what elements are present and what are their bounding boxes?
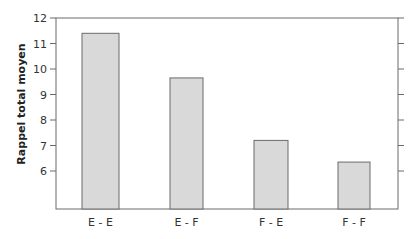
x-category-label: E - F [174,216,198,229]
bars [82,33,370,209]
y-axis-title: Rappel total moyen [15,43,28,164]
y-tick-label: 7 [40,140,47,153]
y-tick-label: 6 [40,165,47,178]
y-tick-label: 9 [40,89,47,102]
y-tick-label: 11 [33,38,47,51]
bar-chart: 6789101112 E - EE - FF - EF - F Rappel t… [0,0,418,239]
x-category-label: F - E [259,216,283,229]
x-category-label: F - F [342,216,366,229]
y-tick-label: 8 [40,114,47,127]
bar [254,140,288,209]
x-axis-labels: E - EE - FF - EF - F [88,216,366,229]
y-tick-label: 12 [33,12,47,25]
bar [82,33,119,209]
x-category-label: E - E [88,216,113,229]
bar [338,162,370,209]
y-tick-label: 10 [33,63,47,76]
bar [170,78,203,209]
